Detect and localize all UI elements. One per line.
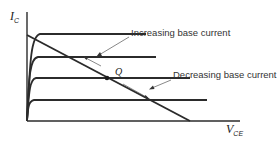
- x-axis-label: VCE: [226, 122, 243, 137]
- curve-ib-3: [27, 57, 156, 121]
- increasing-base-current-label: Increasing base current: [131, 27, 231, 38]
- q-point-dot: [105, 76, 110, 81]
- y-axis-label: IC: [9, 9, 20, 24]
- y-axis-subscript: C: [14, 17, 20, 24]
- q-point-label: Q: [115, 66, 123, 77]
- x-axis-subscript: CE: [233, 130, 243, 137]
- decreasing-base-current-label: Decreasing base current: [173, 69, 277, 80]
- decreasing-leader-line: [152, 80, 171, 88]
- decreasing-direction-arrow: [123, 84, 148, 98]
- collector-characteristic-diagram: Q Increasing base current Decreasing bas…: [0, 0, 279, 142]
- increasing-leader-line: [99, 37, 129, 55]
- leader-arrowhead-icon: [149, 86, 155, 90]
- curve-ib-1: [27, 100, 207, 121]
